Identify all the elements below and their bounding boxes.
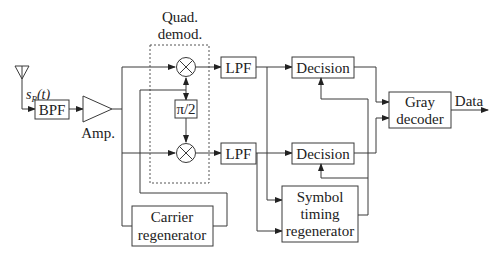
- phase-shift-block: π/2: [175, 100, 197, 118]
- quad-demod-title-2: demod.: [158, 26, 203, 42]
- svg-text:LPF: LPF: [226, 60, 252, 76]
- svg-text:regenerator: regenerator: [138, 227, 206, 243]
- svg-text:decoder: decoder: [396, 111, 443, 127]
- svg-text:π/2: π/2: [176, 101, 195, 117]
- amplifier-triangle-icon: [83, 96, 112, 122]
- output-data-label: Data: [455, 93, 484, 109]
- svg-text:Symbol: Symbol: [297, 189, 344, 205]
- quad-demod-title-1: Quad.: [162, 9, 198, 25]
- svg-text:Decision: Decision: [296, 60, 350, 76]
- qpsk-receiver-diagram: sR(t) BPF Amp. Quad. demod. π/2: [0, 0, 501, 261]
- gray-decoder-block: Gray decoder: [389, 92, 451, 128]
- svg-text:LPF: LPF: [226, 146, 252, 162]
- lpf-lower-block: LPF: [221, 143, 256, 164]
- svg-text:BPF: BPF: [39, 102, 66, 118]
- amp-label: Amp.: [81, 125, 115, 141]
- symbol-timing-regenerator-block: Symbol timing regenerator: [282, 186, 358, 242]
- bpf-block: BPF: [35, 100, 69, 119]
- svg-text:timing: timing: [300, 206, 340, 222]
- decision-upper-block: Decision: [292, 57, 354, 78]
- svg-text:Gray: Gray: [405, 94, 435, 110]
- mixer-lower-icon: [177, 144, 196, 163]
- decision-lower-block: Decision: [292, 143, 354, 164]
- mixer-upper-icon: [177, 58, 196, 77]
- svg-text:regenerator: regenerator: [286, 223, 354, 239]
- carrier-regenerator-block: Carrier regenerator: [132, 206, 213, 246]
- svg-text:Decision: Decision: [296, 146, 350, 162]
- svg-text:Carrier: Carrier: [151, 209, 193, 225]
- lpf-upper-block: LPF: [221, 57, 256, 78]
